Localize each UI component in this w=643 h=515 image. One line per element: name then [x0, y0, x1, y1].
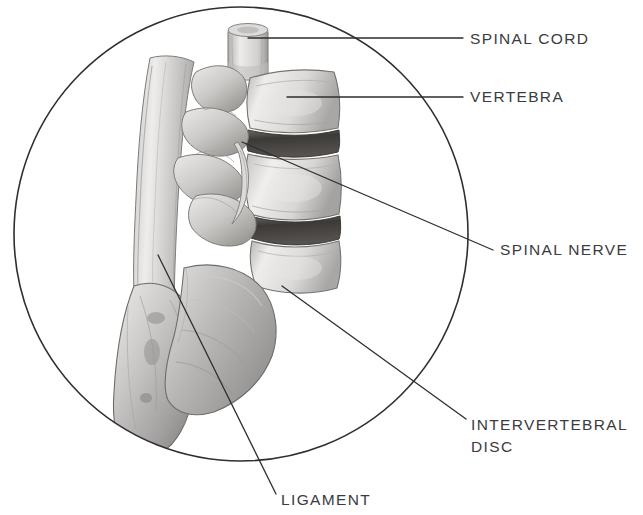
label-spinal-cord: SPINAL CORD — [470, 28, 589, 50]
label-spinal-nerve: SPINAL NERVE — [500, 239, 628, 261]
vertebral-body-lower — [250, 241, 340, 293]
label-intervertebral-disc-line2: DISC — [471, 438, 513, 455]
diagram-canvas: SPINAL CORD VERTEBRA SPINAL NERVE INTERV… — [0, 0, 643, 515]
label-ligament: LIGAMENT — [281, 489, 371, 511]
leader-line-intervertebral-disc — [282, 286, 466, 419]
label-vertebra: VERTEBRA — [470, 86, 564, 108]
ilium-wing — [165, 265, 276, 415]
label-intervertebral-disc: INTERVERTEBRALDISC — [471, 414, 628, 458]
vertebral-body-upper — [247, 70, 340, 133]
label-intervertebral-disc-line1: INTERVERTEBRAL — [471, 416, 628, 433]
intervertebral-disc-upper — [247, 130, 340, 157]
